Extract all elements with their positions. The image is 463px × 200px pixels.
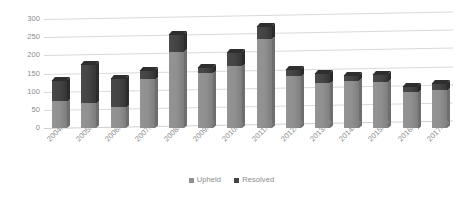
y-axis-tick-label: 100 <box>2 88 40 96</box>
bar-column[interactable] <box>257 26 272 128</box>
y-axis-tick-label: 300 <box>2 15 40 23</box>
bars-layer <box>44 14 453 132</box>
bar-segment-resolved[interactable] <box>198 67 213 73</box>
bar-side-face <box>272 24 275 128</box>
bar-side-face <box>213 64 216 128</box>
chart-legend: Upheld Resolved <box>0 176 463 184</box>
bar-side-face <box>301 67 304 128</box>
bar-segment-upheld[interactable] <box>140 79 155 128</box>
bar-segment-resolved[interactable] <box>52 80 67 101</box>
y-axis-tick-label: 150 <box>2 70 40 78</box>
x-axis: 2004/52005/62006/72007/82008/92009/10201… <box>44 131 453 179</box>
bar-segment-resolved[interactable] <box>432 83 447 90</box>
bar-side-face <box>96 62 99 128</box>
bar-side-face <box>126 75 129 128</box>
y-axis-tick-label: 250 <box>2 33 40 41</box>
bar-segment-upheld[interactable] <box>257 39 272 128</box>
bar-side-face <box>155 67 158 128</box>
resolved-swatch-icon <box>234 178 239 183</box>
bar-side-face <box>242 50 245 128</box>
upheld-swatch-icon <box>189 178 194 183</box>
bar-side-face <box>67 77 70 128</box>
bar-column[interactable] <box>140 70 155 128</box>
legend-item-upheld[interactable]: Upheld <box>189 176 221 184</box>
bar-segment-resolved[interactable] <box>81 64 96 103</box>
bar-segment-upheld[interactable] <box>169 52 184 128</box>
bar-segment-resolved[interactable] <box>257 26 272 39</box>
bar-segment-resolved[interactable] <box>227 52 242 66</box>
legend-item-resolved[interactable]: Resolved <box>234 176 274 184</box>
bar-segment-resolved[interactable] <box>373 74 388 81</box>
y-axis-tick-label: 50 <box>2 106 40 114</box>
legend-label-upheld: Upheld <box>197 176 221 184</box>
legend-label-resolved: Resolved <box>242 176 274 184</box>
bar-side-face <box>184 32 187 128</box>
bar-segment-resolved[interactable] <box>344 75 359 80</box>
y-axis-tick-label: 200 <box>2 51 40 59</box>
bar-segment-resolved[interactable] <box>111 78 126 107</box>
bar-column[interactable] <box>227 52 242 128</box>
bar-segment-resolved[interactable] <box>140 70 155 79</box>
bar-column[interactable] <box>169 34 184 128</box>
bar-segment-resolved[interactable] <box>286 69 301 76</box>
bar-column[interactable] <box>81 64 96 128</box>
bar-segment-resolved[interactable] <box>315 73 330 83</box>
y-axis-tick-label: 0 <box>2 124 40 132</box>
bar-side-face <box>388 72 391 128</box>
bar-segment-resolved[interactable] <box>169 34 184 51</box>
bar-chart: 300250200150100500 2004/52005/62006/7200… <box>0 0 463 200</box>
y-axis: 300250200150100500 <box>0 0 40 200</box>
